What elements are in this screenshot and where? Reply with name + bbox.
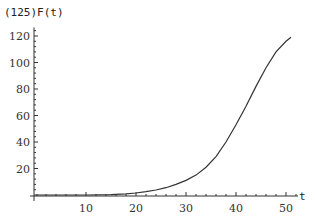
y-tick-label: 100 [9, 57, 30, 70]
x-tick-label: 10 [79, 202, 93, 215]
y-axis: 20406080100120 [9, 27, 38, 201]
y-tick-label: 40 [16, 136, 30, 149]
x-tick-label: 20 [129, 202, 143, 215]
x-tick-label: 40 [229, 202, 243, 215]
y-tick-label: 80 [16, 83, 30, 96]
x-tick-label: 30 [179, 202, 193, 215]
y-axis-title: (125)F(t) [4, 6, 64, 19]
x-axis-title: t [299, 190, 306, 203]
data-line [36, 37, 291, 195]
chart: 20406080100120 1020304050 (125)F(t) t [0, 0, 315, 220]
y-tick-label: 20 [16, 163, 30, 176]
y-tick-label: 60 [16, 110, 30, 123]
x-tick-label: 50 [279, 202, 293, 215]
y-tick-label: 120 [9, 30, 30, 43]
